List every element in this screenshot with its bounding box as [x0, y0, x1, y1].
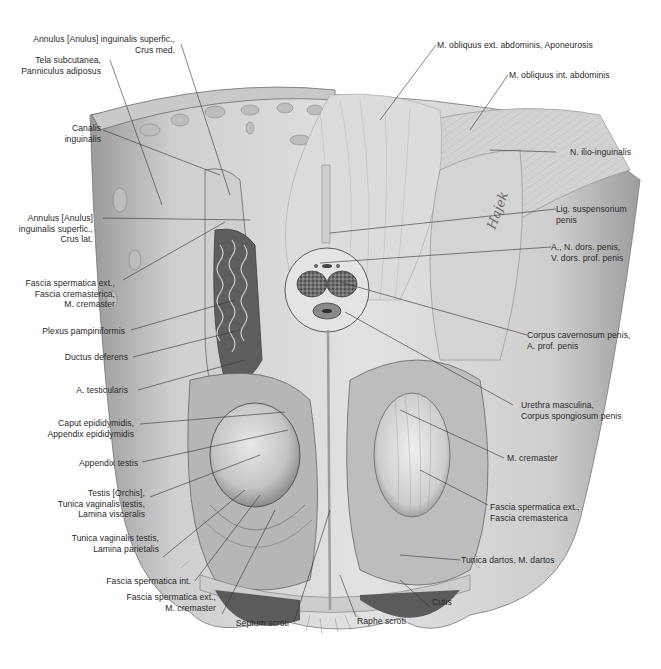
label-line: Fascia spermatica ext.,	[126, 592, 216, 603]
label-line: Crus lat.	[19, 234, 93, 245]
anatomical-figure: Hajek	[0, 0, 661, 669]
label-plexus-pampiniformis: Plexus pampiniformis	[42, 326, 125, 337]
label-line: Tunica dartos, M. dartos	[461, 555, 555, 566]
label-line: Crus med.	[33, 45, 175, 56]
label-line: Panniculus adiposus	[21, 66, 101, 77]
label-tunica-dartos: Tunica dartos, M. dartos	[461, 555, 555, 566]
label-line: Annulus [Anulus] inguinalis superfic.,	[33, 34, 175, 45]
label-n-ilio-inguinalis: N. ilio-inguinalis	[570, 147, 631, 158]
label-line: N. ilio-inguinalis	[570, 147, 631, 158]
label-fascia-sperm-ext-m-crem: Fascia spermatica ext., M. cremaster	[126, 592, 216, 613]
label-fascia-sperm-ext-fascia-crem: Fascia spermatica ext., Fascia cremaster…	[490, 502, 580, 523]
label-fascia-sperm-ext-crem: Fascia spermatica ext., Fascia cremaster…	[25, 278, 115, 310]
label-ductus-deferens: Ductus deferens	[65, 352, 128, 363]
label-line: M. obliquus ext. abdominis, Aponeurosis	[437, 40, 593, 51]
label-line: Fascia cremasterica	[490, 513, 580, 524]
label-line: penis	[556, 215, 627, 226]
label-line: Tunica vaginalis testis,	[58, 499, 145, 510]
label-line: Lig. suspensorium	[556, 204, 627, 215]
label-testis-orchis: Testis [Orchis], Tunica vaginalis testis…	[58, 488, 145, 520]
label-line: M. cremaster	[507, 453, 558, 464]
label-line: Tunica vaginalis testis,	[72, 533, 159, 544]
label-m-cremaster: M. cremaster	[507, 453, 558, 464]
label-line: A. testicularis	[76, 385, 128, 396]
label-line: M. obliquus int. abdominis	[509, 70, 610, 81]
label-line: Ductus deferens	[65, 352, 128, 363]
label-raphe-scroti: Raphe scroti	[357, 616, 406, 627]
label-line: Lamina visceralis	[58, 509, 145, 520]
label-tela-subcutanea: Tela subcutanea, Panniculus adiposus	[21, 55, 101, 76]
label-appendix-testis: Appendix testis	[79, 458, 138, 469]
label-septum-scroti: Septum scroti	[236, 618, 289, 629]
label-canalis-inguinalis: Canalis inguinalis	[65, 123, 101, 144]
label-line: Caput epididymidis,	[47, 418, 134, 429]
label-line: Corpus spongiosum penis	[521, 411, 622, 422]
label-tunica-vag-parietalis: Tunica vaginalis testis, Lamina parietal…	[72, 533, 159, 554]
label-line: Fascia spermatica int.	[106, 576, 191, 587]
label-m-obliquus-int: M. obliquus int. abdominis	[509, 70, 610, 81]
label-line: Septum scroti	[236, 618, 289, 629]
label-line: Cutis	[432, 597, 452, 608]
label-line: Testis [Orchis],	[58, 488, 145, 499]
label-line: Corpus cavernosum penis,	[527, 330, 630, 341]
label-line: inguinalis	[65, 134, 101, 145]
label-line: M. cremaster	[25, 299, 115, 310]
label-line: Fascia spermatica ext.,	[490, 502, 580, 513]
label-line: Plexus pampiniformis	[42, 326, 125, 337]
label-a-testicularis: A. testicularis	[76, 385, 128, 396]
label-line: Lamina parietalis	[72, 544, 159, 555]
label-cutis: Cutis	[432, 597, 452, 608]
label-line: Appendix epididymidis	[47, 429, 134, 440]
label-line: A., N. dors. penis,	[551, 242, 623, 253]
label-line: Urethra masculina,	[521, 400, 622, 411]
label-line: Tela subcutanea,	[21, 55, 101, 66]
label-line: Fascia cremasterica,	[25, 289, 115, 300]
label-corpus-cavernosum: Corpus cavernosum penis, A. prof. penis	[527, 330, 630, 351]
label-line: A. prof. penis	[527, 341, 630, 352]
label-line: V. dors. prof. penis	[551, 253, 623, 264]
label-line: Annulus [Anulus]	[19, 213, 93, 224]
label-line: Fascia spermatica ext.,	[25, 278, 115, 289]
label-line: Raphe scroti	[357, 616, 406, 627]
label-m-obliquus-ext: M. obliquus ext. abdominis, Aponeurosis	[437, 40, 593, 51]
label-fascia-sperm-int: Fascia spermatica int.	[106, 576, 191, 587]
label-urethra-masculina: Urethra masculina, Corpus spongiosum pen…	[521, 400, 622, 421]
label-line: Canalis	[65, 123, 101, 134]
label-line: Appendix testis	[79, 458, 138, 469]
label-line: inguinalis superfic.,	[19, 224, 93, 235]
label-a-n-dors-penis: A., N. dors. penis, V. dors. prof. penis	[551, 242, 623, 263]
label-annulus-crus-lat: Annulus [Anulus] inguinalis superfic., C…	[19, 213, 93, 245]
label-annulus-crus-med: Annulus [Anulus] inguinalis superfic., C…	[33, 34, 175, 55]
label-lig-suspensorium: Lig. suspensorium penis	[556, 204, 627, 225]
label-line: M. cremaster	[126, 603, 216, 614]
label-caput-epididymidis: Caput epididymidis, Appendix epididymidi…	[47, 418, 134, 439]
